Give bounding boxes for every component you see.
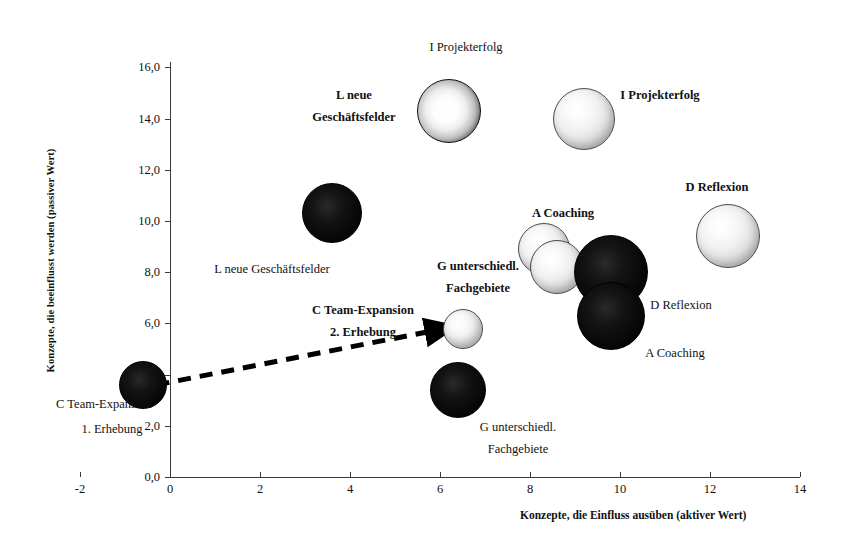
data-point-label: G unterschiedl.: [437, 259, 519, 275]
data-point-label: C Team-Expansion: [312, 303, 414, 319]
y-tick-mark: [165, 375, 170, 376]
data-point-label: A Coaching: [645, 346, 704, 362]
data-point-label: D Reflexion: [686, 180, 749, 196]
x-tick-mark: [260, 472, 261, 477]
x-tick-mark: [800, 472, 801, 477]
x-tick-label: 12: [704, 482, 717, 497]
data-point-bubble[interactable]: [696, 204, 760, 268]
x-tick-mark: [80, 472, 81, 477]
x-tick-label: 0: [167, 482, 173, 497]
y-tick-label: 16,0: [118, 60, 160, 75]
data-point-bubble[interactable]: [553, 88, 615, 150]
x-tick-label: 8: [527, 482, 533, 497]
y-tick-mark: [165, 272, 170, 273]
data-point-label: Fachgebiete: [446, 281, 510, 297]
data-point-bubble[interactable]: [302, 183, 362, 243]
data-point-label: I Projekterfolg: [620, 88, 699, 104]
x-tick-label: 6: [437, 482, 443, 497]
data-point-label: 2. Erhebung: [330, 325, 396, 341]
y-tick-label: 14,0: [118, 111, 160, 126]
data-point-label: I Projekterfolg: [429, 40, 502, 56]
x-tick-mark: [170, 472, 171, 477]
data-point-label: Fachgebiete: [488, 442, 548, 458]
x-tick-label: 10: [614, 482, 627, 497]
x-tick-mark: [620, 472, 621, 477]
x-tick-label: 2: [257, 482, 263, 497]
y-axis-title: Konzepte, die beeinflusst werden (passiv…: [45, 116, 56, 406]
y-tick-label: 10,0: [118, 214, 160, 229]
y-tick-mark: [165, 426, 170, 427]
data-point-bubble[interactable]: [417, 79, 481, 143]
y-tick-label: 12,0: [118, 162, 160, 177]
data-point-label: D Reflexion: [650, 298, 711, 314]
data-point-label: L neue: [336, 88, 372, 104]
chart-canvas: Konzepte, die beeinflusst werden (passiv…: [0, 0, 854, 556]
data-point-label: A Coaching: [532, 206, 594, 222]
data-point-label: L neue Geschäftsfelder: [214, 262, 329, 278]
data-point-bubble[interactable]: [430, 362, 486, 418]
x-tick-label: 14: [794, 482, 807, 497]
y-tick-label: 0,0: [118, 470, 160, 485]
x-tick-mark: [350, 472, 351, 477]
data-point-bubble[interactable]: [443, 309, 483, 349]
y-tick-label: 8,0: [118, 265, 160, 280]
data-point-label: Geschäftsfelder: [312, 110, 395, 126]
y-tick-mark: [165, 477, 170, 478]
data-point-label: 1. Erhebung: [81, 422, 142, 438]
y-tick-mark: [165, 67, 170, 68]
x-tick-label: 4: [347, 482, 353, 497]
x-tick-mark: [440, 472, 441, 477]
x-tick-mark: [530, 472, 531, 477]
x-tick-label: -2: [75, 482, 85, 497]
y-tick-mark: [165, 170, 170, 171]
data-point-label: C Team-Expansion: [56, 397, 152, 413]
y-tick-mark: [165, 119, 170, 120]
y-tick-label: 6,0: [118, 316, 160, 331]
x-axis-line: [170, 477, 800, 478]
y-tick-mark: [165, 323, 170, 324]
data-point-bubble[interactable]: [577, 282, 645, 350]
y-tick-mark: [165, 221, 170, 222]
y-axis-line: [170, 62, 171, 478]
x-axis-title: Konzepte, die Einfluss ausüben (aktiver …: [520, 509, 746, 521]
x-tick-mark: [710, 472, 711, 477]
data-point-label: G unterschiedl.: [480, 420, 556, 436]
